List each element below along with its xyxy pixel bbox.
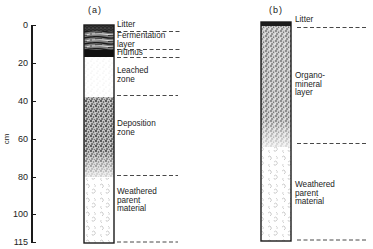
deposition-fade	[84, 150, 114, 180]
label-b-weathered-3: material	[295, 198, 324, 207]
layer-a-fermentation	[84, 31, 114, 51]
organo-fade	[261, 120, 291, 150]
layer-a-humus	[84, 50, 114, 57]
layer-a-weathered	[84, 178, 114, 243]
label-b-organo-3: layer	[295, 89, 313, 98]
layer-a-litter	[84, 25, 114, 31]
label-a-humus: Humus	[117, 49, 143, 58]
boundaries-b	[297, 28, 366, 241]
label-a-leached-2: zone	[117, 76, 135, 85]
label-b-litter: Litter	[295, 16, 313, 25]
label-a-litter: Litter	[117, 21, 135, 30]
soil-column-a	[84, 25, 114, 243]
layer-b-weathered	[261, 147, 291, 241]
label-a-weathered-3: material	[117, 205, 146, 214]
label-a-deposition-2: zone	[117, 129, 135, 138]
soil-profiles-graphic	[0, 0, 373, 249]
layer-a-leached	[84, 57, 114, 97]
soil-column-b	[261, 22, 291, 241]
